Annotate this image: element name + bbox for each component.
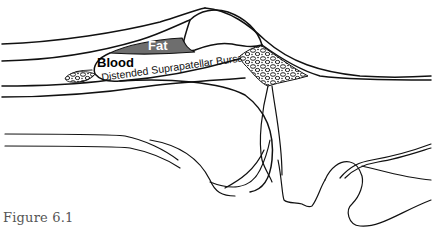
figure-caption: Figure 6.1 <box>3 210 74 225</box>
tibia <box>325 144 431 226</box>
joint-lines <box>210 86 325 207</box>
fat-region: Fat <box>110 38 195 54</box>
femoral-condyle <box>120 80 273 196</box>
knee-joint-diagram: Fat Blood Distended Suprapatellar Bursa <box>0 0 433 232</box>
patella <box>184 10 262 50</box>
bursa-fat-pad <box>65 72 95 83</box>
femur-shaft <box>2 78 245 168</box>
patellar-tendon <box>205 8 431 80</box>
infrapatellar-fat-pad <box>240 46 308 86</box>
label-fat: Fat <box>148 38 168 53</box>
